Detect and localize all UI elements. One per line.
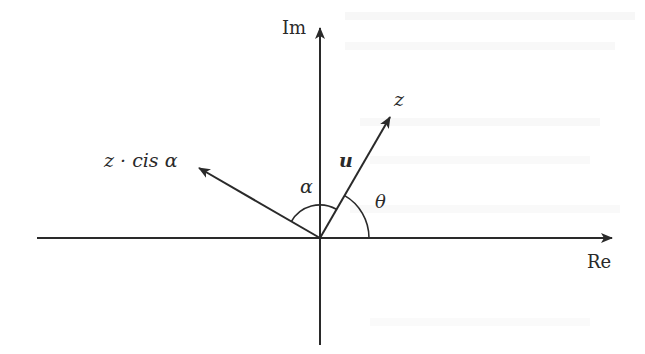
alpha-angle-arc bbox=[291, 205, 336, 222]
z-vector bbox=[320, 117, 390, 238]
alpha-angle-label: α bbox=[300, 175, 313, 197]
theta-angle-label: θ bbox=[375, 191, 386, 212]
real-axis-label: Re bbox=[587, 251, 611, 272]
imaginary-axis-label: Im bbox=[282, 17, 306, 38]
background-bleed-through bbox=[345, 12, 635, 326]
z-cis-alpha-label: z · cis α bbox=[103, 149, 178, 171]
theta-angle-arc bbox=[344, 195, 369, 238]
z-label: z bbox=[393, 88, 405, 110]
u-vector-label: u bbox=[339, 149, 353, 171]
complex-plane-diagram: Im Re z z · cis α u α θ bbox=[0, 0, 645, 354]
